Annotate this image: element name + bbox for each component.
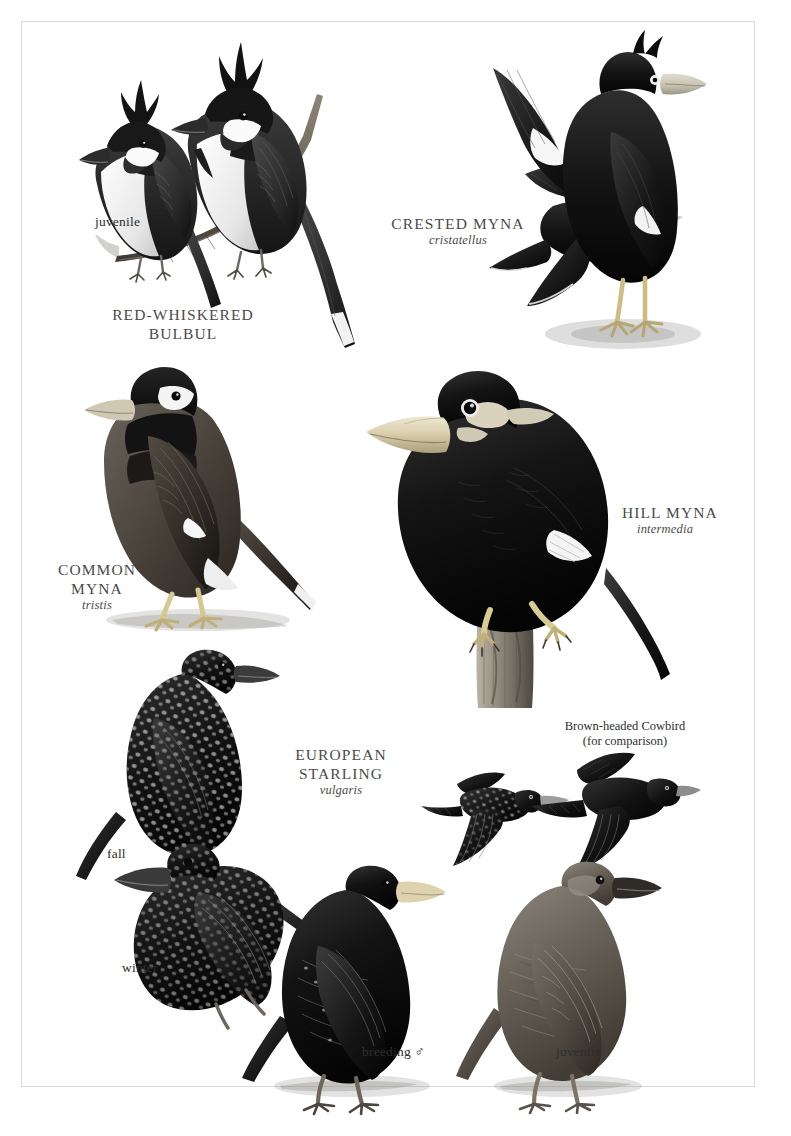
label-starling-name-line2: STARLING bbox=[299, 764, 383, 783]
common-myna-tail bbox=[236, 518, 316, 610]
field-guide-plate: juvenile RED-WHISKERED BULBUL bbox=[0, 0, 791, 1136]
label-bulbul-juvenile: juvenile bbox=[95, 214, 140, 230]
label-starling-sci: vulgaris bbox=[320, 783, 363, 798]
cowbird-flying bbox=[531, 753, 701, 872]
label-starling-winter: winter bbox=[122, 960, 158, 976]
crested-myna-group bbox=[405, 24, 745, 364]
label-bulbul-name-line2: BULBUL bbox=[149, 324, 218, 343]
label-hill-myna-name: HILL MYNA bbox=[622, 503, 718, 522]
label-hill-myna-sci: intermedia bbox=[637, 522, 693, 537]
label-bulbul-name-line1: RED-WHISKERED bbox=[112, 305, 254, 324]
label-common-myna-sci: tristis bbox=[82, 598, 112, 613]
label-starling-name-line1: EUROPEAN bbox=[295, 745, 386, 764]
label-cowbird-line2: (for comparison) bbox=[583, 734, 667, 749]
label-cowbird-line1: Brown-headed Cowbird bbox=[565, 719, 685, 734]
label-starling-fall: fall bbox=[107, 846, 126, 862]
label-common-myna-name-line2: MYNA bbox=[71, 579, 123, 598]
starling-juvenile-group bbox=[450, 858, 670, 1108]
label-crested-myna-name: CRESTED MYNA bbox=[391, 214, 524, 233]
label-starling-breeding: breeding ♂ bbox=[362, 1044, 425, 1060]
hill-myna-group bbox=[318, 352, 688, 712]
label-starling-juvenile: juvenile bbox=[556, 1044, 601, 1060]
bulbul-adult-perched bbox=[171, 42, 355, 348]
label-crested-myna-sci: cristatellus bbox=[429, 233, 487, 248]
starling-flying bbox=[421, 772, 569, 866]
label-common-myna-name-line1: COMMON bbox=[58, 560, 136, 579]
bulbul-group bbox=[55, 22, 365, 332]
starling-breeding-male-group bbox=[240, 860, 450, 1110]
